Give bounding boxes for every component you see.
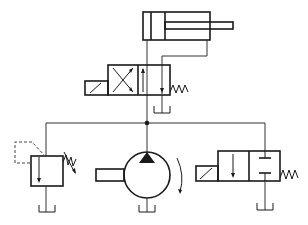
hydraulic-circuit-diagram: Hydraulic circuit schematic (0, 0, 308, 225)
cylinder-icon (143, 12, 233, 40)
unloading-valve-2-2-icon (196, 151, 298, 181)
spring-icon (170, 85, 188, 93)
flow-direction-triangle (139, 152, 155, 163)
cylinder-port-lines (147, 40, 207, 123)
solenoid-icon (196, 166, 218, 181)
rotation-arrow-icon (177, 158, 182, 192)
adjustable-spring-icon (63, 155, 76, 166)
junction-dot (145, 121, 150, 126)
directional-valve-4-2-icon (85, 65, 188, 95)
solenoid-icon (85, 81, 108, 95)
spring-icon (280, 170, 298, 179)
pump-icon (96, 152, 182, 198)
tank-icon (39, 205, 55, 212)
